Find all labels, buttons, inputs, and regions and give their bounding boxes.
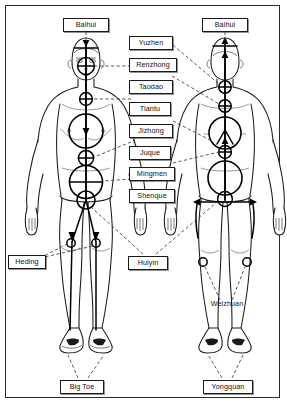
label-weizhuan[interactable]: Weizhuan xyxy=(203,300,251,307)
label-baihui-back[interactable]: Baihui xyxy=(202,18,248,32)
label-tiantu[interactable]: Tiantu xyxy=(129,102,171,116)
label-yuzhen[interactable]: Yuzhen xyxy=(129,36,173,50)
label-heding[interactable]: Heding xyxy=(8,255,46,269)
label-yongquan[interactable]: Yongquan xyxy=(203,380,253,394)
label-shenque[interactable]: Shenque xyxy=(129,189,175,203)
label-renzhong[interactable]: Renzhong xyxy=(129,58,177,72)
label-taodao[interactable]: Taodao xyxy=(129,80,173,94)
label-huiyin[interactable]: Huiyin xyxy=(128,256,168,270)
label-juque[interactable]: Juque xyxy=(129,146,171,160)
label-big-toe[interactable]: Big Toe xyxy=(60,380,104,394)
label-jizhong[interactable]: Jizhong xyxy=(129,124,173,138)
label-mingmen[interactable]: Mingmen xyxy=(129,167,175,181)
diagram-canvas: .body{fill:#ffffff;stroke:#1a1a1a;stroke… xyxy=(0,0,287,405)
label-baihui-front[interactable]: Baihui xyxy=(63,18,109,32)
